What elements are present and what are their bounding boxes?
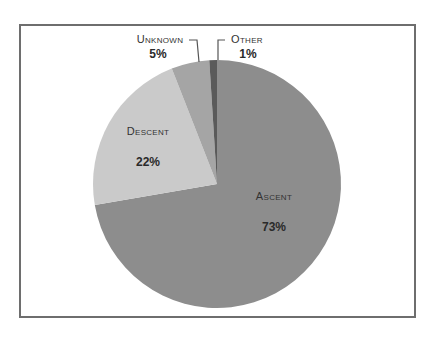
other-label: Other <box>222 33 272 45</box>
ascent-percent: 73% <box>246 220 302 234</box>
ascent-label: Ascent <box>239 190 309 202</box>
descent-percent: 22% <box>120 155 176 169</box>
unknown-percent: 5% <box>138 47 178 61</box>
unknown-leader-line <box>189 40 199 62</box>
pie-chart <box>0 0 436 338</box>
descent-label: Descent <box>108 125 188 137</box>
other-percent: 1% <box>228 47 268 61</box>
unknown-label: Unknown <box>130 33 190 45</box>
